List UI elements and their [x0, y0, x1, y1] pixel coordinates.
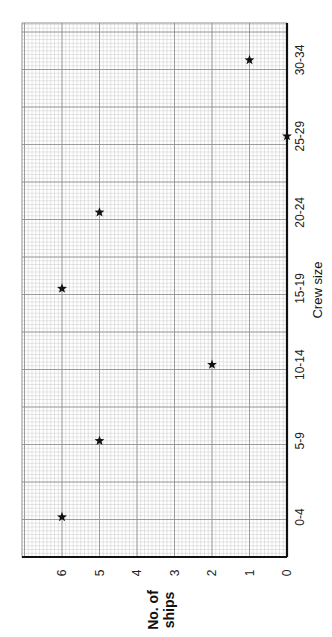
- y-tick-label: 0: [280, 569, 294, 576]
- y-tick-label: 4: [130, 569, 144, 576]
- x-axis-label: Crew size: [310, 261, 325, 318]
- y-tick-label: 6: [55, 569, 69, 576]
- x-tick-label: 20-24: [293, 197, 307, 228]
- x-tick-label: 0-4: [293, 508, 307, 526]
- scatter-chart: 0123456 0-45-910-1415-1920-2425-2930-34 …: [0, 0, 332, 637]
- y-axis-label-line2: ships: [161, 592, 177, 629]
- y-tick-label: 5: [93, 569, 107, 576]
- y-tick-label: 3: [168, 569, 182, 576]
- x-tick-label: 10-14: [293, 349, 307, 380]
- y-axis-label: No. of ships: [145, 590, 177, 630]
- x-axis-ticks: 0-45-910-1415-1920-2425-2930-34: [293, 44, 307, 525]
- y-tick-label: 2: [205, 569, 219, 576]
- y-axis-ticks: 0123456: [55, 569, 294, 576]
- x-tick-label: 30-34: [293, 44, 307, 75]
- y-axis-label-line1: No. of: [145, 590, 161, 630]
- x-tick-label: 5-9: [293, 432, 307, 450]
- y-tick-label: 1: [243, 569, 257, 576]
- x-tick-label: 15-19: [293, 273, 307, 304]
- x-tick-label: 25-29: [293, 121, 307, 152]
